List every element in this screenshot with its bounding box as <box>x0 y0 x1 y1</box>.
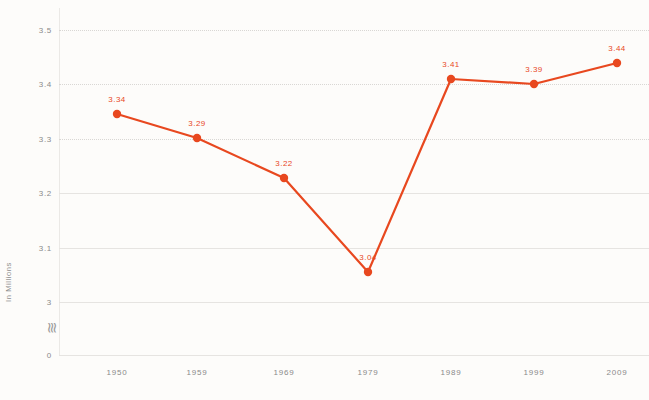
data-point-marker[interactable] <box>613 59 621 67</box>
series-polyline <box>117 63 617 272</box>
data-point-label: 3.39 <box>525 65 543 74</box>
data-point-label: 3.41 <box>442 60 460 69</box>
data-point-marker[interactable] <box>364 268 372 276</box>
data-point-label: 3.44 <box>608 44 626 53</box>
data-point-marker[interactable] <box>113 110 121 118</box>
data-point-marker[interactable] <box>280 174 288 182</box>
data-point-label: 3.34 <box>108 95 126 104</box>
data-point-label: 3.29 <box>188 119 206 128</box>
series-line <box>0 0 649 400</box>
data-point-label: 3.22 <box>275 159 293 168</box>
series-markers <box>113 59 621 276</box>
line-chart: In Millions ≋ 3.53.43.33.23.130 19501959… <box>0 0 649 400</box>
data-point-marker[interactable] <box>530 80 538 88</box>
data-point-marker[interactable] <box>447 75 455 83</box>
data-point-label: 3.04 <box>359 253 377 262</box>
data-point-marker[interactable] <box>193 134 201 142</box>
